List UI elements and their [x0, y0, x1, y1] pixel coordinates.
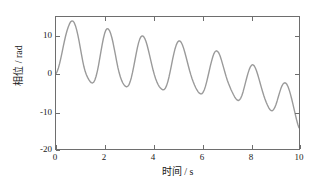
y-axis-title: 相位 / rad: [13, 26, 24, 106]
y-tick-label-0: 0: [48, 69, 53, 78]
x-tick-label-2: 2: [102, 153, 107, 162]
x-tick-mark-10: [300, 145, 301, 149]
figure-container: 0 2 4 6 8 10 10 0 -10 -20 时间 / s 相位 / ra…: [0, 0, 320, 183]
plot-area: [55, 16, 300, 150]
y-tick-label-10: 10: [43, 31, 52, 40]
y-tick-mark-minus20: [56, 150, 60, 151]
phase-curve-line: [56, 21, 299, 128]
y-tick-label-minus10: -10: [40, 108, 52, 117]
x-tick-mark-8: [252, 145, 253, 149]
x-tick-mark-2: [105, 145, 106, 149]
x-tick-label-10: 10: [295, 153, 304, 162]
x-tick-mark-top-6: [203, 17, 204, 21]
x-tick-label-6: 6: [200, 153, 205, 162]
x-tick-label-4: 4: [151, 153, 156, 162]
phase-curve-svg: [56, 17, 299, 149]
x-tick-mark-0: [56, 145, 57, 149]
x-tick-label-8: 8: [249, 153, 254, 162]
x-tick-label-0: 0: [53, 153, 58, 162]
x-tick-mark-top-4: [154, 17, 155, 21]
y-tick-label-minus20: -20: [40, 145, 52, 154]
y-tick-mark-minus10: [56, 113, 60, 114]
y-tick-mark-right-10: [295, 36, 299, 37]
x-tick-mark-6: [203, 145, 204, 149]
y-tick-mark-0: [56, 74, 60, 75]
x-tick-mark-top-8: [252, 17, 253, 21]
y-tick-mark-10: [56, 36, 60, 37]
x-tick-mark-top-2: [105, 17, 106, 21]
y-tick-mark-right-minus10: [295, 113, 299, 114]
x-tick-mark-4: [154, 145, 155, 149]
x-axis-title: 时间 / s: [55, 166, 300, 177]
y-tick-mark-right-0: [295, 74, 299, 75]
